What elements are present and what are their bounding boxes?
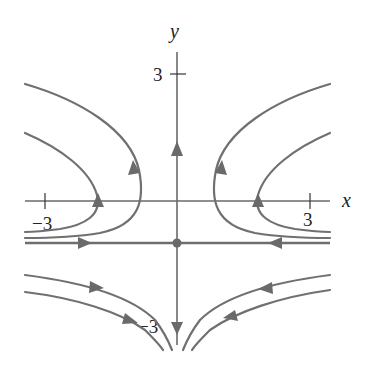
arrow-right-icon <box>122 313 138 324</box>
arrow-left-icon <box>223 310 238 321</box>
phase-portrait-diagram: x y −3 3 3 −3 <box>0 0 370 367</box>
trajectory-upper-right-outer <box>214 84 330 238</box>
equilibrium-point <box>173 239 182 248</box>
x-tick-label-3: 3 <box>303 209 313 230</box>
arrow-left-icon <box>258 282 273 294</box>
arrow-right-icon <box>78 237 92 249</box>
arrow-up-icon <box>171 141 183 156</box>
y-axis-label: y <box>168 20 179 43</box>
y-tick-label-3: 3 <box>153 64 163 85</box>
arrow-left-icon <box>268 237 282 249</box>
arrow-up-icon <box>92 193 104 207</box>
arrow-down-icon <box>171 322 183 335</box>
x-axis-label: x <box>341 189 351 211</box>
trajectory-lower-right-inner <box>192 290 330 350</box>
arrow-up-icon <box>252 193 264 207</box>
trajectory-lower-right-outer <box>183 275 330 350</box>
trajectory-upper-right-inner <box>257 133 330 232</box>
